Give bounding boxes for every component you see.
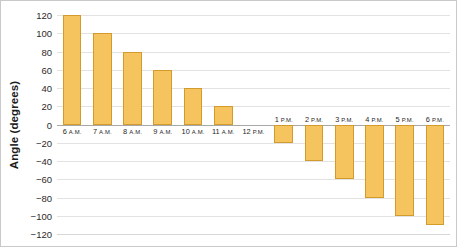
y-axis-tick-label: −20	[36, 137, 52, 148]
x-axis-tick-label: 6 P.M.	[426, 115, 444, 124]
x-axis-tick-label: 8 A.M.	[123, 127, 142, 136]
x-axis-tick-label: 11 A.M.	[212, 127, 234, 136]
y-axis-tick-label: −100	[31, 210, 52, 221]
x-axis-tick-label: 1 P.M.	[275, 115, 293, 124]
y-axis-tick-label: 120	[36, 10, 52, 21]
bar	[214, 106, 233, 124]
gridline	[57, 234, 450, 235]
y-axis-tick-label: −80	[36, 192, 52, 203]
bar	[335, 125, 354, 180]
x-axis-tick-label: 7 A.M.	[93, 127, 112, 136]
y-axis-tick-label: 20	[41, 101, 52, 112]
y-axis-tick-label: −120	[31, 229, 52, 240]
y-axis-tick-label: 40	[41, 83, 52, 94]
bar	[153, 70, 172, 125]
x-axis-tick-label: 9 A.M.	[153, 127, 172, 136]
chart-figure: Angle (degrees) 120100806040200−20−40−60…	[0, 0, 457, 247]
x-axis-tick-label: 6 A.M.	[63, 127, 82, 136]
plot-area: 120100806040200−20−40−60−80−100−120 6 A.…	[57, 15, 450, 234]
y-axis-title: Angle (degrees)	[1, 1, 27, 247]
x-axis-tick-label: 3 P.M.	[335, 115, 353, 124]
bar	[93, 33, 112, 124]
bar	[395, 125, 414, 216]
y-axis-tick-label: −40	[36, 156, 52, 167]
bar	[63, 15, 82, 125]
bar	[123, 52, 142, 125]
bar	[274, 125, 293, 143]
y-axis-tick-label: 80	[41, 46, 52, 57]
y-axis-tick-label: −60	[36, 174, 52, 185]
bar	[305, 125, 324, 162]
bar-series	[57, 15, 450, 234]
bar	[365, 125, 384, 198]
x-axis-tick-label: 12 P.M.	[242, 127, 264, 136]
y-axis-tick-label: 0	[47, 119, 52, 130]
x-axis-tick-label: 5 P.M.	[396, 115, 414, 124]
x-axis-tick-label: 10 A.M.	[182, 127, 205, 136]
y-axis-tick-label: 100	[36, 28, 52, 39]
bar	[426, 125, 445, 225]
x-axis-tick-label: 4 P.M.	[365, 115, 383, 124]
y-axis-title-text: Angle (degrees)	[8, 80, 20, 168]
x-axis-tick-label: 2 P.M.	[305, 115, 323, 124]
bar	[184, 88, 203, 125]
y-axis-tick-label: 60	[41, 64, 52, 75]
